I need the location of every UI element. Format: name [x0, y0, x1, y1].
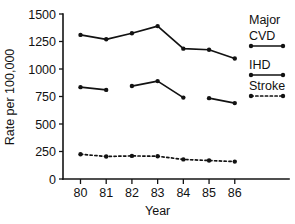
x-tick-label: 81 [99, 186, 113, 200]
legend-swatch-marker [249, 73, 253, 77]
x-tick-label: 80 [74, 186, 88, 200]
series-ihd [78, 79, 237, 105]
data-point [104, 88, 108, 92]
chart-canvas: 025050075010001250150080818283848586Year… [0, 0, 295, 224]
data-point [130, 154, 134, 158]
data-point [207, 48, 211, 52]
data-point [233, 101, 237, 105]
x-tick-label: 83 [151, 186, 165, 200]
legend-label: IHD [249, 58, 271, 72]
data-point [181, 157, 185, 161]
series-line [80, 87, 106, 90]
y-tick-label: 0 [49, 173, 56, 187]
x-tick-label: 84 [176, 186, 190, 200]
data-point [155, 79, 159, 83]
data-point [155, 154, 159, 158]
series-line [209, 98, 235, 103]
data-point [155, 24, 159, 28]
legend-swatch-marker [281, 73, 285, 77]
series-line [80, 26, 234, 58]
y-tick-label: 750 [35, 90, 56, 104]
data-point [78, 33, 82, 37]
legend-label: CVD [249, 29, 275, 43]
data-point [233, 159, 237, 163]
x-axis-title: Year [145, 204, 170, 218]
series-major-cvd [78, 24, 237, 61]
data-point [181, 95, 185, 99]
x-tick-label: 86 [228, 186, 242, 200]
y-tick-label: 1250 [28, 35, 56, 49]
legend-swatch-marker [249, 44, 253, 48]
series-stroke [78, 152, 237, 164]
data-point [78, 85, 82, 89]
data-point [181, 46, 185, 50]
y-tick-label: 1500 [28, 8, 56, 22]
y-tick-label: 250 [35, 145, 56, 159]
data-point [104, 154, 108, 158]
data-point [130, 84, 134, 88]
chart-figure: 025050075010001250150080818283848586Year… [0, 0, 295, 224]
legend-label: Stroke [249, 79, 285, 93]
legend-label: Major [249, 13, 280, 27]
legend-swatch-marker [281, 94, 285, 98]
data-point [78, 152, 82, 156]
legend-swatch-marker [281, 44, 285, 48]
data-point [233, 56, 237, 60]
y-tick-label: 1000 [28, 63, 56, 77]
data-point [104, 37, 108, 41]
series-line [158, 81, 184, 98]
series-line [132, 81, 158, 86]
legend-swatch-marker [249, 94, 253, 98]
x-tick-label: 85 [202, 186, 216, 200]
y-axis-title: Rate per 100,000 [3, 49, 17, 146]
data-point [130, 31, 134, 35]
data-point [207, 158, 211, 162]
data-point [207, 96, 211, 100]
y-tick-label: 500 [35, 118, 56, 132]
x-tick-label: 82 [125, 186, 139, 200]
